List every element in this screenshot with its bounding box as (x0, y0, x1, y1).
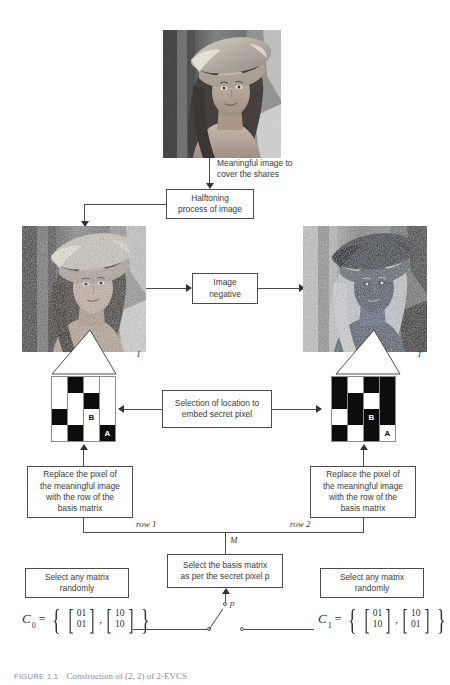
pixel-cell[interactable] (380, 377, 395, 393)
box-select-random-right[interactable]: Select any matrix randomly (320, 568, 424, 598)
pixel-cell[interactable] (84, 377, 99, 393)
matrix-c1-member-1: [ 10 01 ] (400, 608, 432, 630)
pixel-cell-a-mark[interactable]: A (380, 425, 395, 441)
arrowhead-select-basis (222, 588, 230, 594)
connector-halftoning-left-h (84, 204, 166, 205)
pixel-cell[interactable] (52, 377, 67, 393)
pixel-cell[interactable] (100, 409, 115, 425)
pixel-cell[interactable] (364, 393, 379, 409)
pixel-cell[interactable] (100, 393, 115, 409)
label-row-2: row 2 (290, 519, 310, 530)
matrix-separator: , (395, 613, 398, 625)
pixel-cell-b-mark[interactable]: B (364, 409, 379, 425)
matrix-row: 10 (115, 619, 125, 630)
box-replace-left-label: Replace the pixel of the meaningful imag… (30, 469, 130, 515)
matrix-row: 10 (373, 619, 383, 630)
arrowhead-left-grid (118, 405, 124, 413)
pixel-cell[interactable] (52, 393, 67, 409)
pixel-cell[interactable] (52, 425, 67, 441)
box-halftoning-process[interactable]: Halftoning process of image (166, 189, 254, 219)
connector-left-to-negative (146, 288, 189, 289)
figure-canvas: Meaningful image to cover the shares Hal… (0, 0, 450, 685)
matrix-c1-name: C1 (318, 611, 327, 627)
magnifier-cone-left (48, 330, 134, 378)
connector-selection-to-left (124, 409, 162, 410)
pixel-cell[interactable] (332, 377, 347, 393)
label-secret-pixel-p: p (230, 598, 235, 609)
connector-image-to-halftoning (209, 158, 210, 186)
pixel-grid-left[interactable]: B A (51, 376, 116, 442)
pixel-cell[interactable] (332, 425, 347, 441)
connector-row2-across (225, 532, 364, 533)
box-select-random-left[interactable]: Select any matrix randomly (25, 568, 129, 598)
box-random-right-label: Select any matrix randomly (323, 572, 421, 595)
box-selection-of-location[interactable]: Selection of location to embed secret pi… (162, 390, 272, 428)
pixel-grid-right[interactable]: B A (331, 376, 396, 442)
matrix-row: 10 (115, 608, 125, 619)
connector-row1-across (83, 532, 225, 533)
pixel-cell-a-mark[interactable]: A (100, 425, 115, 441)
switch-node-p[interactable] (223, 602, 227, 606)
matrix-c1: C1 = { [ 01 10 ] , [ 10 01 ] } (318, 608, 449, 630)
box-selection-label: Selection of location to embed secret pi… (165, 398, 269, 421)
box-select-basis-matrix[interactable]: Select the basis matrix as per the secre… (167, 554, 283, 588)
connector-replace-right-up (363, 450, 364, 466)
pixel-cell-b-mark[interactable]: B (84, 409, 99, 425)
pixel-cell[interactable] (84, 393, 99, 409)
pixel-cell[interactable] (52, 409, 67, 425)
matrix-c1-member-0: [ 01 10 ] (362, 608, 394, 630)
pixel-cell[interactable] (100, 377, 115, 393)
pixel-cell[interactable] (332, 393, 347, 409)
box-replace-pixel-left[interactable]: Replace the pixel of the meaningful imag… (27, 466, 133, 518)
pixel-cell[interactable] (84, 425, 99, 441)
matrix-c0-member-0: [ 01 01 ] (66, 608, 98, 630)
switch-blade[interactable] (209, 608, 224, 629)
box-random-left-label: Select any matrix randomly (28, 572, 126, 595)
source-image-lenna (163, 30, 281, 158)
connector-row1-down (83, 518, 84, 532)
figure-caption: FIGURE 1.1 Construction of (2, 2) of 2-E… (14, 671, 189, 681)
pixel-cell[interactable] (68, 409, 83, 425)
pixel-cell[interactable] (364, 377, 379, 393)
matrix-c0-member-1: [ 10 10 ] (104, 608, 136, 630)
label-row-1: row 1 (136, 519, 156, 530)
equals-sign: = (335, 612, 342, 627)
matrix-row: 01 (77, 619, 87, 630)
pixel-cell[interactable] (348, 377, 363, 393)
pixel-cell[interactable] (348, 425, 363, 441)
equals-sign: = (39, 612, 46, 627)
pixel-cell[interactable] (364, 425, 379, 441)
pixel-cell[interactable] (380, 409, 395, 425)
box-replace-right-label: Replace the pixel of the meaningful imag… (313, 469, 413, 515)
pixel-cell[interactable] (68, 393, 83, 409)
connector-negative-to-right (258, 288, 302, 289)
arrowhead-right-grid (316, 405, 322, 413)
label-matrix-m: M (230, 535, 238, 546)
pixel-cell[interactable] (68, 425, 83, 441)
matrix-row: 10 (411, 608, 421, 619)
matrix-row: 01 (411, 619, 421, 630)
matrix-c0-subscript: 0 (32, 621, 36, 630)
magnifier-cone-right (328, 330, 418, 378)
arrowhead-replace-left (80, 444, 88, 450)
pixel-cell[interactable] (380, 393, 395, 409)
box-halftoning-label: Halftoning process of image (169, 193, 251, 216)
matrix-c0: C0 = { [ 01 01 ] , [ 10 10 ] } (22, 608, 153, 630)
box-replace-pixel-right[interactable]: Replace the pixel of the meaningful imag… (310, 466, 416, 518)
label-meaningful-image: Meaningful image to cover the shares (217, 158, 337, 180)
matrix-row: 01 (77, 608, 87, 619)
connector-row2-down (363, 518, 364, 532)
box-select-basis-label: Select the basis matrix as per the secre… (170, 560, 280, 583)
pixel-cell[interactable] (68, 377, 83, 393)
box-image-negative[interactable]: Image negative (192, 273, 258, 304)
matrix-row: 01 (373, 608, 383, 619)
connector-m-trunk (225, 532, 226, 554)
pixel-cell[interactable] (348, 409, 363, 425)
connector-replace-left-up (83, 450, 84, 466)
arrowhead-replace-right (360, 444, 368, 450)
pixel-cell[interactable] (348, 393, 363, 409)
label-share-left: I (137, 349, 140, 359)
matrix-c0-name: C0 (22, 611, 31, 627)
connector-p-to-basis (225, 594, 226, 602)
pixel-cell[interactable] (332, 409, 347, 425)
